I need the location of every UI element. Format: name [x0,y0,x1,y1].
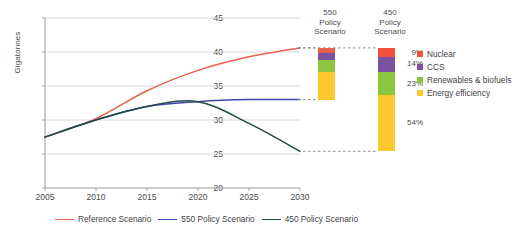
legend-swatch-icon [417,51,423,57]
legend-item[interactable]: Energy efficiency [417,86,511,99]
bar-segment-nuclear[interactable] [378,48,395,57]
legend-swatch-icon [417,64,423,70]
bar-header-line: Policy [304,18,356,28]
series-legend-line-icon [55,219,74,220]
series-legend-label: 450 Policy Scenario [285,214,358,224]
x-tick-label: 2020 [178,192,218,202]
bar-header-line: Scenario [364,27,416,37]
x-tick-label: 2030 [280,192,320,202]
series-legend-item[interactable]: 450 Policy Scenario [262,214,358,224]
bar-header-line: 450 [364,8,416,18]
x-tick-label: 2010 [76,192,116,202]
bar-segment-energy-efficiency[interactable] [378,95,395,151]
bar-segment-renewables-biofuels[interactable] [318,60,335,72]
legend-label: Energy efficiency [427,88,490,98]
legend-item[interactable]: Nuclear [417,47,511,60]
legend-item[interactable]: CCS [417,60,511,73]
bar-percent-label: 54% [401,118,423,127]
series-line-550-policy-scenario [45,99,300,137]
series-legend-line-icon [158,219,177,220]
legend-label: CCS [427,62,445,72]
category-legend: NuclearCCSRenewables & biofuelsEnergy ef… [417,47,511,99]
x-tick-label: 2015 [127,192,167,202]
series-line-450-policy-scenario [45,101,300,152]
bar-header-line: Policy [364,18,416,28]
bar-segment-ccs[interactable] [378,57,395,71]
series-legend-label: 550 Policy Scenario [181,214,254,224]
bar-segment-renewables-biofuels[interactable] [378,72,395,96]
series-legend: Reference Scenario550 Policy Scenario450… [55,214,358,224]
series-legend-item[interactable]: Reference Scenario [55,214,151,224]
x-tick-label: 2005 [25,192,65,202]
legend-swatch-icon [417,77,423,83]
bar-header-line: Scenario [304,27,356,37]
legend-label: Nuclear [427,49,456,59]
x-tick-label: 2025 [229,192,269,202]
chart-root: Gigatonnes 454035302520 2005201020152020… [0,0,525,234]
bar-segment-energy-efficiency[interactable] [318,72,335,100]
series-legend-item[interactable]: 550 Policy Scenario [158,214,254,224]
legend-swatch-icon [417,90,423,96]
stacked-bar[interactable] [378,48,395,151]
bar-header: 450PolicyScenario [364,8,416,37]
bar-header: 550PolicyScenario [304,8,356,37]
bar-segment-ccs[interactable] [318,53,335,60]
series-legend-line-icon [262,219,281,220]
bar-header-line: 550 [304,8,356,18]
series-legend-label: Reference Scenario [78,214,151,224]
stacked-bar[interactable] [318,48,335,100]
legend-label: Renewables & biofuels [427,75,511,85]
legend-item[interactable]: Renewables & biofuels [417,73,511,86]
